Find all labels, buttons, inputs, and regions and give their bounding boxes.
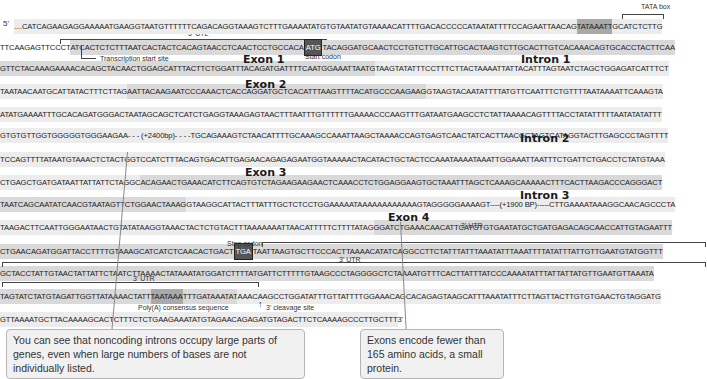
- sequence-row: CTGAGCTGATGATAATTATTATTCTAGGCACAGAACTGAA…: [0, 175, 707, 190]
- exon-2-label: Exon 2: [245, 78, 286, 91]
- sequence-row: TAGTATCTATGTAGATTGGTTATAAAACTATTTAATAAAT…: [0, 289, 707, 304]
- sequence-segment: CTGAGCTGATGATAATTATTATTCTAGGC: [0, 175, 140, 190]
- sequence-row: TCCAGTTTTATAATGTAAACTCTACTGGTCCATCTTTACA…: [0, 152, 707, 167]
- sequence-segment: TTCAAGAGTTCCCT: [0, 40, 70, 55]
- sequence-segment: GTAAGGCATTACTTTATTTGCTCTCCTGGAAAAATAAAAA…: [186, 197, 675, 212]
- utr-3-label-1: 3' UTR: [461, 222, 483, 229]
- sequence-segment: ATATGAAAATTTGCACAGATGGGACTAATAGCAGCTCATC…: [0, 107, 662, 122]
- exon-3-label: Exon 3: [245, 166, 286, 179]
- cleavage-label: 3' cleavage site: [266, 304, 314, 311]
- sequence-row: GCTACCTATTGTAACTATTATTCTAATCTTAAAACTATAA…: [0, 266, 707, 281]
- sequence-row: TTCAAGAGTTCCCTATCACTCTCTTTAATCACTACTCACA…: [0, 39, 707, 54]
- sequence-row: TAATCAGCAATATCAACGTAATAGTTCTGGAACTAAAGGT…: [0, 197, 707, 212]
- sequence-row: GTGTGTTGGTGGGGGTGGGAAGAA- - - (+2400bp)-…: [0, 128, 707, 143]
- intron-2-label: Intron 2: [520, 132, 569, 145]
- sequence-segment: 3': [398, 312, 403, 327]
- utr-3-brace-3: [2, 282, 259, 287]
- sequence-segment: ....CATCAGAAGAGGAAAAATGAAGGTAATGTTTTTTCA…: [14, 19, 577, 34]
- sequence-segment: TCCAGTTTTATAATGTAAACTCTACTGGTCCATCTTTACA…: [0, 152, 665, 167]
- utr-3-brace-1: [262, 242, 706, 247]
- sequence-segment: TAAGACTTCAATTGGGAATAACTGTATATAAGGTAAACTA…: [0, 220, 374, 235]
- sequence-segment: TATAAATT: [577, 19, 613, 34]
- sequence-segment: GTTAAAATGCTTACAAAAGCACTCTTTCTCTGAAGAAATA…: [0, 312, 398, 327]
- cleavage-arrow-icon: ↑: [258, 299, 263, 309]
- sequence-row: GTTCTACAAAGAAAACACAGCTACAACTGGAGCATTTACT…: [0, 61, 707, 76]
- intron-1-label: Intron 1: [521, 53, 570, 66]
- intron-3-label: Intron 3: [520, 189, 569, 202]
- sequence-segment: ACAGAACTGAAACATCTTCAGTGTCTAGAAGAAGAACTCA…: [140, 175, 662, 190]
- start-codon-label: Start codon: [305, 53, 341, 60]
- sequence-segment: GCTACCTATTGTAACTATTATTCTAATCTTAAAACTATAA…: [0, 266, 654, 281]
- sequence-segment: GTAAGTACAATATTTTATGTTCAATTTCTGTTTTAATAAA…: [426, 84, 662, 99]
- sequence-segment: TACAGGATGCAACTCCTGTCTTGCATTGCACTAAGTCTTG…: [322, 40, 674, 55]
- sequence-row: ATATGAAAATTTGCACAGATGGGACTAATAGCAGCTCATC…: [0, 107, 707, 122]
- tata-box-label: TATA box: [641, 3, 670, 10]
- introns-note: You can see that noncoding introns occup…: [6, 329, 305, 379]
- sequence-segment: TAATAACAATGCATTATACTTTCTTAG: [0, 84, 127, 99]
- utr-3-brace-2: [2, 262, 706, 267]
- stop-codon-label: Stop codon: [227, 240, 262, 247]
- sequence-row: TAAGACTTCAATTGGGAATAACTGTATATAAGGTAAACTA…: [0, 220, 707, 235]
- polya-label: Poly(A) consensus sequence: [138, 304, 229, 311]
- transcription-start-label: Transcription start site: [100, 55, 169, 62]
- utr-3-label-3: 3' UTR: [133, 275, 155, 282]
- sequence-row: ....CATCAGAAGAGGAAAAATGAAGGTAATGTTTTTTCA…: [0, 19, 707, 34]
- transcription-start-arrow: [81, 45, 96, 59]
- sequence-segment: GTTCTACAAAGAAAACACAGCTACAACTGGAGCATTTACT…: [0, 61, 375, 76]
- sequence-row: GTTAAAATGCTTACAAAAGCACTCTTTCTCTGAAGAAATA…: [0, 312, 707, 327]
- sequence-segment: TAATCAGCAATATCAACGTAATAGTTCTGGAACTAAAG: [0, 197, 186, 212]
- exon-4-label: Exon 4: [388, 211, 429, 224]
- sequence-segment: GCATCTCTTG: [612, 19, 662, 34]
- sequence-segment: TAGTATCTATGTAGATTGGTTATAAAACTATT: [0, 289, 151, 304]
- sequence-row: TAATAACAATGCATTATACTTTCTTAGAATTACAAGAATC…: [0, 84, 707, 99]
- exons-note: Exons encode fewer than 165 amino acids,…: [360, 329, 504, 379]
- sequence-segment: TAATAAA: [151, 289, 183, 304]
- exon-1-label: Exon 1: [243, 53, 284, 66]
- sequence-segment: AAACAAGCCTGGATATTTGTTATTTTGGAAACAGCACAGA…: [237, 289, 660, 304]
- sequence-segment: TTTGATAAATAT: [183, 289, 238, 304]
